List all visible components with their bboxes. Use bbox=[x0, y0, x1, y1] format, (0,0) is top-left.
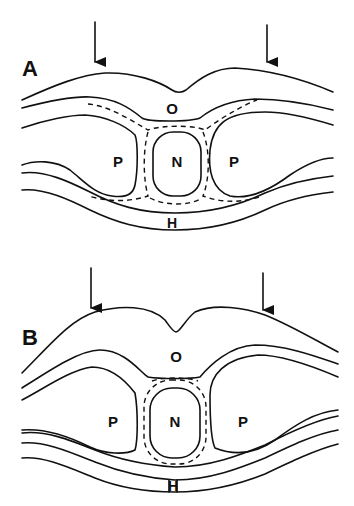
region-p-right-label: P bbox=[229, 153, 239, 170]
region-p-left-label: P bbox=[113, 153, 123, 170]
region-o-label: O bbox=[170, 348, 182, 365]
region-n-label: N bbox=[170, 413, 181, 430]
region-p-left-label: P bbox=[108, 413, 118, 430]
region-p-right-label: P bbox=[238, 413, 248, 430]
panel-a: A O P N P H bbox=[22, 22, 333, 231]
region-n-label: N bbox=[172, 153, 183, 170]
outer-surface-line bbox=[22, 68, 333, 100]
panel-b-label: B bbox=[22, 325, 38, 350]
diagram-canvas: A O P N P H B bbox=[0, 0, 354, 506]
panel-b: B O P N P H bbox=[22, 268, 338, 494]
region-h-label: H bbox=[168, 478, 178, 494]
upper-boundary-right bbox=[210, 355, 338, 453]
region-h-label: H bbox=[167, 215, 177, 231]
region-o-label: O bbox=[166, 100, 178, 117]
dashed-boundary-bottom bbox=[150, 198, 202, 204]
upper-boundary-left bbox=[22, 367, 137, 453]
panel-a-label: A bbox=[22, 56, 38, 81]
